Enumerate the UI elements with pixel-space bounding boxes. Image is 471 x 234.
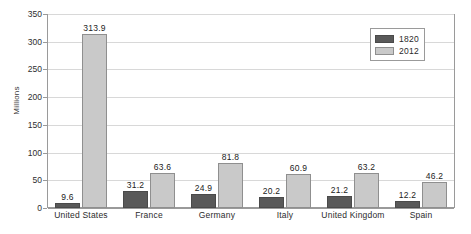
bar-1820-spain[interactable]: [395, 201, 420, 208]
bar-2012-spain[interactable]: [422, 182, 447, 208]
y-tick-label: 350: [4, 9, 42, 19]
y-tick-label: 300: [4, 37, 42, 47]
bar-value-label: 46.2: [416, 171, 453, 181]
y-tick-label: 150: [4, 120, 42, 130]
legend-label-2012: 2012: [399, 46, 419, 56]
bar-chart: Millions 350300250200150100500 9.6313.93…: [0, 0, 471, 234]
y-tick-label: 0: [4, 203, 42, 213]
y-tick-label: 200: [4, 92, 42, 102]
y-axis-title: Millions: [12, 71, 21, 131]
x-axis-labels: United StatesFranceGermanyItalyUnited Ki…: [47, 210, 455, 226]
gridline: [48, 208, 454, 209]
bar-value-label: 12.2: [389, 190, 426, 200]
chart-legend: 1820 2012: [370, 28, 425, 61]
legend-item-2012[interactable]: 2012: [375, 45, 419, 56]
y-tick-label: 50: [4, 175, 42, 185]
y-tick-label: 250: [4, 64, 42, 74]
x-tick-label: France: [115, 210, 183, 220]
y-tick-label: 100: [4, 148, 42, 158]
x-tick-label: United States: [47, 210, 115, 220]
x-tick-label: United Kingdom: [319, 210, 387, 220]
y-tick-mark: [43, 208, 47, 209]
legend-label-1820: 1820: [399, 34, 419, 44]
legend-swatch-icon-1820: [375, 35, 394, 43]
legend-swatch-icon-2012: [375, 47, 394, 55]
x-tick-label: Germany: [183, 210, 251, 220]
legend-item-1820[interactable]: 1820: [375, 33, 419, 44]
x-tick-label: Italy: [251, 210, 319, 220]
x-tick-label: Spain: [387, 210, 455, 220]
